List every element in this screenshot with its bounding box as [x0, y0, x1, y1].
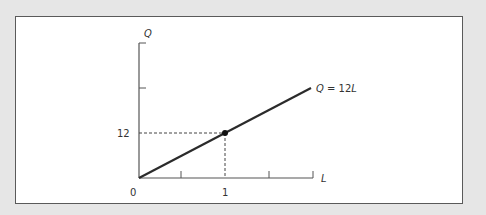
equation-l: L	[351, 83, 357, 94]
equation-label: Q = 12L	[316, 83, 357, 94]
x-axis-label: L	[321, 173, 327, 184]
y-tick-label: 12	[117, 128, 130, 139]
equation-mid: = 12	[324, 83, 351, 94]
highlight-point	[222, 130, 228, 136]
x-tick-label: 1	[222, 187, 228, 198]
production-function-chart: Q L 0 1 12 Q = 12L	[0, 0, 486, 215]
y-axis-label: Q	[144, 28, 152, 39]
origin-label: 0	[130, 187, 136, 198]
equation-q: Q	[316, 83, 324, 94]
